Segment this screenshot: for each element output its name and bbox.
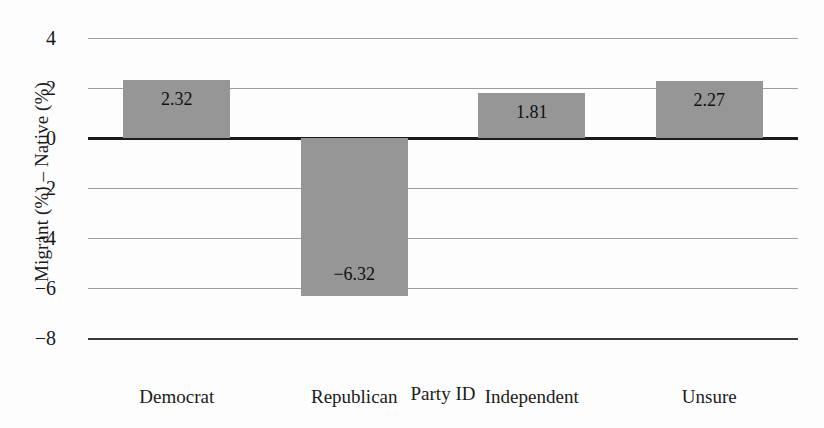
- bar-value-label: 2.27: [694, 90, 726, 111]
- bar-value-label: 2.32: [161, 89, 193, 110]
- y-tick-label: −6: [0, 277, 56, 300]
- bar-value-label: −6.32: [333, 264, 375, 285]
- gridline: [88, 188, 798, 189]
- gridline: [88, 288, 798, 289]
- gridline: [88, 38, 798, 39]
- bar-chart: Migrant (%) – Native (%) 420−2−4−6−82.32…: [0, 0, 824, 428]
- y-tick-label: −2: [0, 177, 56, 200]
- y-tick-label: −8: [0, 327, 56, 350]
- y-tick-label: 2: [0, 77, 56, 100]
- y-tick-label: −4: [0, 227, 56, 250]
- bar-value-label: 1.81: [516, 102, 548, 123]
- y-tick-label: 4: [0, 27, 56, 50]
- x-axis-title: Party ID: [88, 383, 798, 405]
- plot-area: 420−2−4−6−82.32Democrat−6.32Republican1.…: [88, 38, 798, 338]
- gridline: [88, 238, 798, 239]
- y-tick-label: 0: [0, 127, 56, 150]
- gridline: [88, 338, 798, 340]
